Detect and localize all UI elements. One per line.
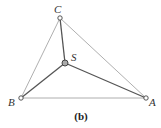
edge-c-b — [21, 18, 60, 98]
node-b — [19, 96, 23, 100]
label-s: S — [71, 51, 77, 63]
node-c — [58, 16, 62, 20]
triangle-diagram: C S B A (b) — [0, 0, 161, 128]
label-b: B — [8, 96, 15, 108]
label-c: C — [54, 3, 62, 15]
edge-s-b — [21, 63, 65, 98]
edge-s-c — [60, 18, 65, 63]
label-a: A — [148, 96, 156, 108]
edge-s-a — [65, 63, 146, 98]
node-s — [62, 60, 68, 66]
node-a — [144, 96, 148, 100]
figure-caption: (b) — [74, 110, 88, 123]
